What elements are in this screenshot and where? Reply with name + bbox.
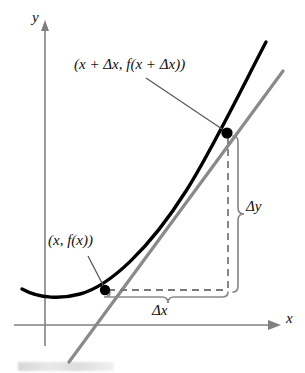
x-axis-label: x bbox=[286, 311, 293, 326]
caption-fragment bbox=[18, 362, 114, 371]
delta-x-label: Δx bbox=[152, 303, 167, 318]
y-axis-arrowhead bbox=[41, 20, 49, 31]
upper-point-marker bbox=[221, 127, 232, 138]
lower-point-label: (x, f(x)) bbox=[48, 233, 93, 248]
leader-line-upper bbox=[146, 78, 222, 129]
lower-point-marker bbox=[100, 285, 110, 295]
upper-point-label: (x + Δx, f(x + Δx)) bbox=[74, 57, 185, 72]
secant-line bbox=[69, 71, 283, 362]
x-axis bbox=[14, 320, 281, 330]
delta-y-label: Δy bbox=[246, 199, 261, 214]
y-axis-label: y bbox=[32, 10, 39, 25]
x-axis-arrowhead bbox=[268, 320, 281, 330]
secant-line-figure: (x + Δx, f(x + Δx)) (x, f(x)) Δy Δx y x bbox=[0, 0, 305, 373]
leader-line-lower bbox=[88, 256, 103, 285]
brace-delta-y bbox=[233, 136, 244, 292]
